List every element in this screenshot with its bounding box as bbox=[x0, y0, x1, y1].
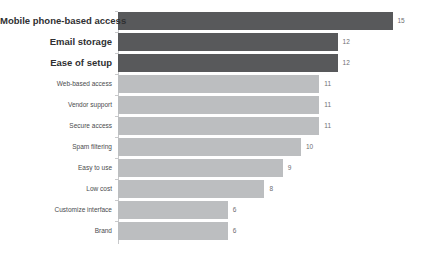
category-label: Brand bbox=[0, 228, 112, 235]
bar bbox=[118, 159, 283, 177]
category-label: Easy to use bbox=[0, 165, 112, 172]
category-label: Customize interface bbox=[0, 207, 112, 214]
category-label: Ease of setup bbox=[0, 58, 112, 68]
bar-value-label: 10 bbox=[306, 144, 313, 151]
bar-row: 10 bbox=[118, 138, 301, 156]
bar bbox=[118, 54, 338, 72]
category-label: Low cost bbox=[0, 186, 112, 193]
bar-value-label: 12 bbox=[343, 39, 350, 46]
category-label: Email storage bbox=[0, 37, 112, 47]
bar bbox=[118, 96, 319, 114]
bar-value-label: 12 bbox=[343, 60, 350, 67]
bar bbox=[118, 180, 264, 198]
bar-chart: 151212111111109866 Mobile phone-based ac… bbox=[0, 0, 427, 258]
bar bbox=[118, 33, 338, 51]
bar-row: 8 bbox=[118, 180, 264, 198]
bar-row: 11 bbox=[118, 117, 319, 135]
bar bbox=[118, 138, 301, 156]
category-label: Vendor support bbox=[0, 102, 112, 109]
category-label: Mobile phone-based access bbox=[0, 16, 112, 26]
bar-value-label: 9 bbox=[288, 165, 292, 172]
bar-row: 15 bbox=[118, 12, 393, 30]
bar-value-label: 11 bbox=[324, 81, 331, 88]
bar-value-label: 6 bbox=[233, 207, 237, 214]
bar-row: 9 bbox=[118, 159, 283, 177]
bar-row: 6 bbox=[118, 201, 228, 219]
bar bbox=[118, 12, 393, 30]
bar-value-label: 11 bbox=[324, 123, 331, 130]
bar-value-label: 8 bbox=[269, 186, 273, 193]
bar-value-label: 15 bbox=[398, 18, 405, 25]
bar-row: 11 bbox=[118, 75, 319, 93]
plot-area: 151212111111109866 bbox=[118, 12, 418, 246]
bar bbox=[118, 75, 319, 93]
bar-value-label: 6 bbox=[233, 228, 237, 235]
bar-row: 11 bbox=[118, 96, 319, 114]
bar-value-label: 11 bbox=[324, 102, 331, 109]
bar bbox=[118, 117, 319, 135]
bar bbox=[118, 201, 228, 219]
bar-row: 6 bbox=[118, 222, 228, 240]
category-label: Web-based access bbox=[0, 81, 112, 88]
category-label: Secure access bbox=[0, 123, 112, 130]
bar bbox=[118, 222, 228, 240]
bar-row: 12 bbox=[118, 33, 338, 51]
category-label: Spam filtering bbox=[0, 144, 112, 151]
bar-row: 12 bbox=[118, 54, 338, 72]
